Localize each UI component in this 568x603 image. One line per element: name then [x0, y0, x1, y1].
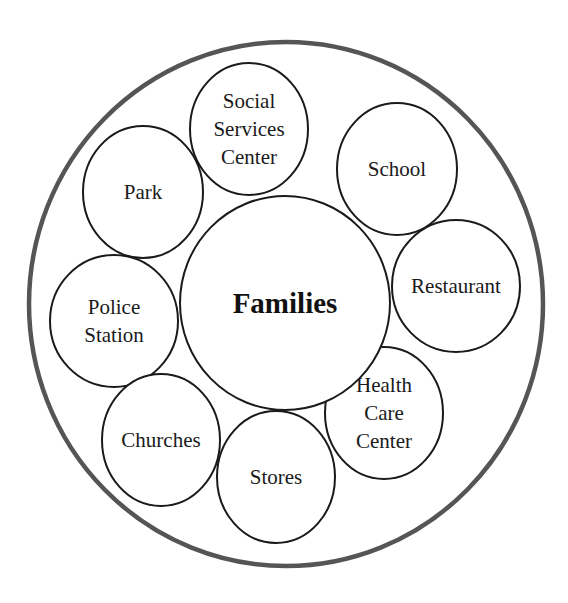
families-label: Families — [233, 287, 338, 319]
node-churches: Churches — [102, 374, 220, 506]
health-care-center-label: Health — [356, 373, 412, 397]
school-label: School — [368, 157, 427, 181]
families-node: Families — [180, 196, 390, 410]
stores-label: Stores — [250, 465, 303, 489]
park-label: Park — [124, 180, 163, 204]
node-stores: Stores — [217, 411, 335, 543]
police-station-label: Police — [88, 295, 141, 319]
health-care-center-label: Center — [356, 429, 412, 453]
social-services-label: Social — [223, 89, 276, 113]
families-ecosystem-diagram: SocialServicesCenterSchoolParkRestaurant… — [0, 0, 568, 603]
node-park: Park — [83, 126, 203, 258]
social-services-label: Center — [221, 145, 277, 169]
node-police-station: PoliceStation — [50, 255, 178, 387]
social-services-label: Services — [213, 117, 284, 141]
restaurant-label: Restaurant — [411, 274, 501, 298]
node-school: School — [337, 103, 457, 235]
police-station-circle — [50, 255, 178, 387]
churches-label: Churches — [121, 428, 200, 452]
police-station-label: Station — [84, 323, 144, 347]
node-restaurant: Restaurant — [392, 220, 520, 352]
node-social-services: SocialServicesCenter — [190, 63, 308, 195]
health-care-center-label: Care — [364, 401, 404, 425]
